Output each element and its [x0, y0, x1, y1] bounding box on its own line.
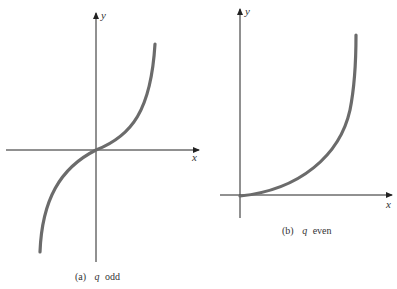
- diagram-canvas: y x (a) q odd y x (b) q even: [0, 0, 397, 289]
- panel-b-q-even: y x (b) q even: [220, 5, 392, 237]
- panel-b-y-label: y: [244, 5, 250, 17]
- panel-b-curve: [240, 35, 356, 196]
- panel-a-x-label: x: [191, 151, 197, 163]
- panel-a-y-label: y: [100, 9, 106, 21]
- panel-b-x-label: x: [385, 198, 391, 210]
- panel-a-q-odd: y x (a) q odd: [6, 9, 199, 283]
- panel-b-caption: (b) q even: [282, 225, 332, 237]
- panel-a-curve: [40, 44, 155, 252]
- panel-a-caption: (a) q odd: [75, 271, 120, 283]
